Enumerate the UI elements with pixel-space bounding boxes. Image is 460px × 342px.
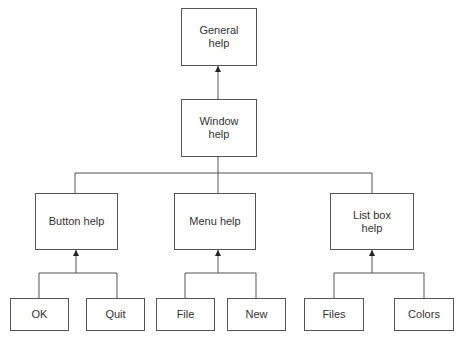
node-label: Menu help [189,215,240,228]
node-label: OK [32,308,48,321]
node-label: help [209,128,230,141]
node-window-help: Window help [181,99,257,157]
node-quit: Quit [86,298,145,331]
node-label: Quit [105,308,125,321]
node-colors: Colors [394,298,454,331]
node-files: Files [304,298,364,331]
node-label: Files [322,308,345,321]
help-hierarchy-diagram: General help Window help Button help Men… [0,0,460,342]
node-ok: OK [10,298,69,331]
node-file: File [156,298,215,331]
node-label: New [245,308,267,321]
node-label: Window [199,115,238,128]
node-label: Button help [49,215,105,228]
node-new: New [227,298,286,331]
node-label: File [177,308,195,321]
node-label: General [199,24,238,37]
node-listbox-help: List box help [330,193,414,250]
node-menu-help: Menu help [174,193,256,250]
node-label: List box [353,209,391,222]
node-general-help: General help [181,8,257,66]
node-label: Colors [408,308,440,321]
node-label: help [209,37,230,50]
node-label: help [362,222,383,235]
node-button-help: Button help [35,193,118,250]
